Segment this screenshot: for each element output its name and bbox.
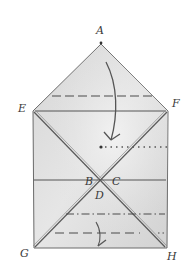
label-h: H bbox=[167, 251, 177, 262]
label-a: A bbox=[96, 25, 104, 36]
diagram-svg bbox=[0, 0, 195, 280]
reference-dot bbox=[99, 145, 102, 148]
label-d: D bbox=[95, 190, 104, 201]
folding-diagram: A E F B C D G H bbox=[0, 0, 195, 280]
apex-point bbox=[100, 42, 103, 45]
label-e: E bbox=[18, 103, 26, 114]
label-c: C bbox=[112, 176, 120, 187]
label-g: G bbox=[20, 248, 29, 259]
label-b: B bbox=[85, 176, 93, 187]
label-f: F bbox=[172, 98, 180, 109]
